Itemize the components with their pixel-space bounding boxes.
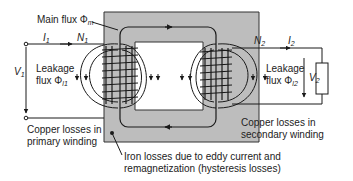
iron-losses-label: Iron losses due to eddy current and rema… <box>124 151 281 175</box>
leakage-flux-primary-label: Leakage flux Φl1 <box>36 63 74 90</box>
n1-label: N1 <box>77 32 88 46</box>
copper-losses-secondary-label: Copper losses in secondary winding <box>241 117 324 141</box>
copper-losses-primary-label: Copper losses in primary winding <box>27 124 101 148</box>
i1-label: I1 <box>43 32 50 46</box>
v1-label: V1 <box>14 66 25 80</box>
i2-label: I2 <box>288 35 295 49</box>
leakage-flux-secondary-label: Leakage flux Φl2 <box>266 63 304 90</box>
n2-label: N2 <box>254 35 265 49</box>
v2-label: V2 <box>309 72 320 86</box>
main-flux-label: Main flux Φm <box>37 14 94 29</box>
